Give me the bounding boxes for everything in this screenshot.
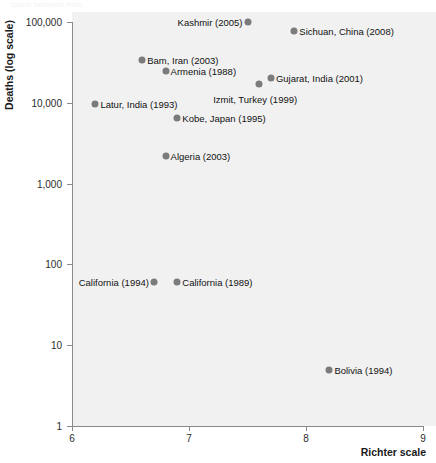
data-point-label: Gujarat, India (2001) bbox=[276, 73, 363, 84]
data-point-marker[interactable] bbox=[244, 19, 251, 26]
x-tick-mark bbox=[306, 426, 307, 431]
data-point-marker[interactable] bbox=[150, 279, 157, 286]
data-point-marker[interactable] bbox=[291, 28, 298, 35]
x-tick-mark bbox=[423, 426, 424, 431]
data-point-marker[interactable] bbox=[92, 100, 99, 107]
y-tick-label: 10,000 bbox=[31, 97, 62, 108]
x-tick-label: 8 bbox=[303, 433, 309, 445]
data-point-marker[interactable] bbox=[256, 81, 263, 88]
data-point-label: Izmit, Turkey (1999) bbox=[213, 94, 297, 105]
data-point-label: Bolivia (1994) bbox=[334, 364, 392, 375]
y-tick-mark bbox=[67, 345, 73, 346]
y-tick-label: 100 bbox=[45, 259, 62, 270]
data-point-marker[interactable] bbox=[139, 56, 146, 63]
data-point-label: Kobe, Japan (1995) bbox=[182, 113, 265, 124]
data-point-label: Algeria (2003) bbox=[171, 150, 231, 161]
data-point-label: Latur, India (1993) bbox=[100, 98, 177, 109]
y-tick-label: 1,000 bbox=[37, 178, 62, 189]
data-point-label: Sichuan, China (2008) bbox=[299, 26, 394, 37]
data-point-marker[interactable] bbox=[174, 115, 181, 122]
x-tick-mark bbox=[189, 426, 190, 431]
data-point-label: California (1989) bbox=[182, 277, 252, 288]
y-axis-line bbox=[72, 22, 73, 426]
y-tick-label: 10 bbox=[51, 340, 62, 351]
data-point-label: Armenia (1988) bbox=[171, 65, 236, 76]
x-tick-label: 6 bbox=[69, 433, 75, 445]
data-point-marker[interactable] bbox=[174, 279, 181, 286]
data-point-label: Kashmir (2005) bbox=[178, 17, 243, 28]
y-tick-mark bbox=[67, 184, 73, 185]
data-point-marker[interactable] bbox=[162, 152, 169, 159]
y-tick-mark bbox=[67, 22, 73, 23]
scatter-chart: Deaths (log scale) Richter scale 1101001… bbox=[0, 0, 436, 463]
y-tick-label: 100,000 bbox=[26, 17, 62, 28]
y-tick-label: 1 bbox=[56, 421, 62, 432]
data-point-label: Bam, Iran (2003) bbox=[147, 54, 218, 65]
y-tick-mark bbox=[67, 103, 73, 104]
data-point-marker[interactable] bbox=[267, 75, 274, 82]
y-tick-mark bbox=[67, 264, 73, 265]
data-point-marker[interactable] bbox=[162, 67, 169, 74]
x-tick-label: 7 bbox=[186, 433, 192, 445]
x-axis-line bbox=[72, 426, 424, 427]
x-axis-title: Richter scale bbox=[361, 446, 426, 458]
data-point-marker[interactable] bbox=[326, 366, 333, 373]
data-point-label: California (1994) bbox=[79, 277, 149, 288]
x-tick-label: 9 bbox=[420, 433, 426, 445]
y-axis-title: Deaths (log scale) bbox=[0, 0, 18, 130]
y-axis-title-text: Deaths (log scale) bbox=[3, 20, 15, 110]
x-tick-mark bbox=[72, 426, 73, 431]
